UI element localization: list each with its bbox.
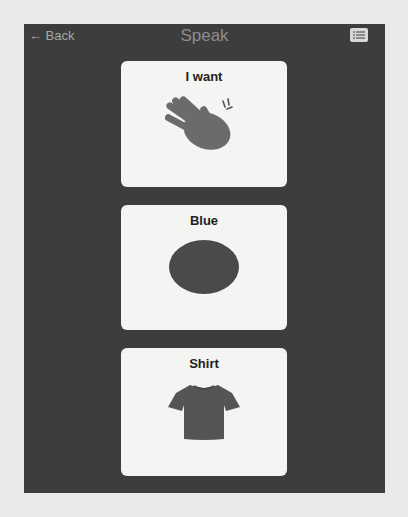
blue-circle-icon (168, 240, 240, 296)
card-label: I want (121, 69, 287, 84)
card-blue[interactable]: Blue (121, 205, 287, 330)
hand-icon (165, 95, 243, 155)
card-shirt[interactable]: Shirt (121, 348, 287, 476)
shirt-icon (166, 383, 242, 441)
list-icon[interactable] (350, 28, 368, 42)
card-label: Shirt (121, 356, 287, 371)
card-label: Blue (121, 213, 287, 228)
card-i-want[interactable]: I want (121, 61, 287, 187)
page-title: Speak (24, 26, 385, 46)
nav-bar: ← Back Speak (24, 24, 385, 54)
app-screen: ← Back Speak I want (24, 24, 385, 493)
